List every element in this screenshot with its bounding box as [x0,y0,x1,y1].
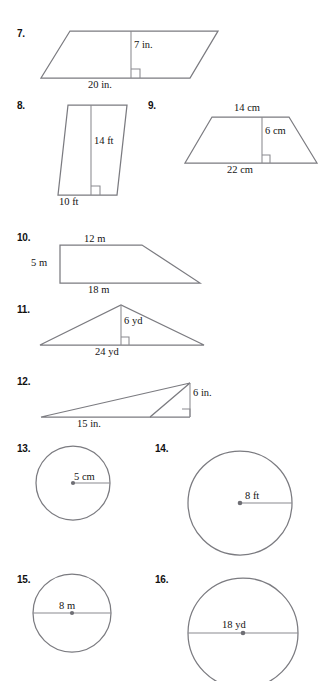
worksheet-page: 7. 7 in. 20 in. 8. 14 ft 10 ft 9. 14 cm … [0,0,332,681]
label-diameter-16: 18 yd [222,620,246,631]
figure-circle-16 [0,0,332,681]
center-dot [241,631,246,636]
